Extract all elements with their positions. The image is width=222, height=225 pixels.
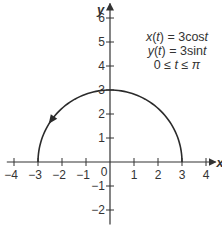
y-tick-label: 6 <box>98 11 105 25</box>
x-tick-label: −2 <box>52 168 66 182</box>
equation-line-1: x(t) = 3cost <box>145 30 209 44</box>
equation-annotation: x(t) = 3costy(t) = 3sint0 ≤ t ≤ π <box>145 30 209 72</box>
y-tick-label: 5 <box>98 35 105 49</box>
y-tick-label: −1 <box>91 179 105 193</box>
equation-line-2: y(t) = 3sint <box>147 44 207 58</box>
x-tick-label: 0 <box>101 165 108 179</box>
equation-line-3: 0 ≤ t ≤ π <box>154 58 201 72</box>
direction-arrow-icon <box>49 114 58 124</box>
y-tick-label: −2 <box>91 203 105 217</box>
x-tick-label: 1 <box>131 168 138 182</box>
x-tick-label: 4 <box>203 168 210 182</box>
x-tick-label: −1 <box>76 168 90 182</box>
parametric-plot: xy −4−3−2−101234−2−1123456 x(t) = 3costy… <box>0 0 222 225</box>
y-tick-label: 4 <box>98 59 105 73</box>
y-tick-label: 1 <box>98 131 105 145</box>
y-tick-label: 2 <box>98 107 105 121</box>
x-tick-label: −3 <box>28 168 42 182</box>
x-axis-label: x <box>216 155 222 170</box>
x-tick-label: 3 <box>179 168 186 182</box>
x-tick-label: −4 <box>4 168 18 182</box>
x-tick-label: 2 <box>155 168 162 182</box>
